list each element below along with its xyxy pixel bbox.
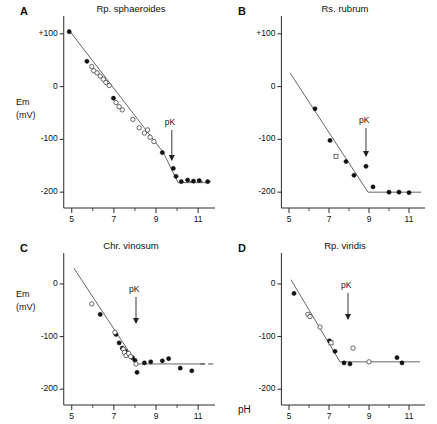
y-tick-label-D-1: -100 (239, 331, 275, 341)
panel-title-A: Rp. sphaeroides (96, 3, 165, 14)
x-tick-label-C-0: 5 (62, 411, 82, 421)
y-tick-label-A-3: -200 (22, 186, 58, 196)
y-tick-label-A-0: +100 (22, 28, 58, 38)
pk-annotation-C: pK (129, 284, 139, 294)
x-tick-label-C-3: 11 (188, 411, 208, 421)
panel-letter-D: D (238, 242, 246, 254)
x-tick-label-B-0: 5 (279, 214, 299, 224)
x-tick-label-A-1: 7 (104, 214, 124, 224)
y-tick-label-A-1: 0 (22, 81, 58, 91)
y-tick-label-C-1: -100 (22, 331, 58, 341)
x-tick-label-A-2: 9 (146, 214, 166, 224)
x-tick-label-B-2: 9 (359, 214, 379, 224)
panel-title-B: Rs. rubrum (322, 3, 369, 14)
y-tick-label-D-2: -200 (239, 383, 275, 393)
panel-title-D: Rp. viridis (324, 240, 366, 251)
y-tick-label-A-2: -100 (22, 133, 58, 143)
panel-letter-A: A (20, 5, 28, 17)
x-tick-label-D-2: 9 (359, 411, 379, 421)
panel-letter-B: B (238, 5, 246, 17)
y-tick-label-C-0: 0 (22, 278, 58, 288)
figure-panel-grid: Em(mV) Em(mV) pH pKARp. sphaeroides+1000… (0, 0, 437, 424)
x-tick-label-D-1: 7 (319, 411, 339, 421)
pk-annotation-A: pK (165, 117, 175, 127)
y-tick-label-D-0: 0 (239, 278, 275, 288)
x-tick-label-A-3: 11 (188, 214, 208, 224)
y-tick-label-B-1: 0 (239, 81, 275, 91)
pk-annotation-B: pK (359, 115, 369, 125)
y-tick-label-B-2: -100 (239, 133, 275, 143)
x-tick-label-A-0: 5 (62, 214, 82, 224)
panel-title-C: Chr. vinosum (103, 240, 158, 251)
pk-annotation-D: pK (341, 280, 351, 290)
x-tick-label-D-0: 5 (279, 411, 299, 421)
x-tick-label-D-3: 11 (399, 411, 419, 421)
x-tick-label-C-2: 9 (146, 411, 166, 421)
y-tick-label-B-0: +100 (239, 28, 275, 38)
panel-letter-C: C (20, 242, 28, 254)
panel-D-plot (0, 0, 437, 424)
x-tick-label-C-1: 7 (104, 411, 124, 421)
y-tick-label-B-3: -200 (239, 186, 275, 196)
x-tick-label-B-1: 7 (319, 214, 339, 224)
y-tick-label-C-2: -200 (22, 383, 58, 393)
x-tick-label-B-3: 11 (399, 214, 419, 224)
